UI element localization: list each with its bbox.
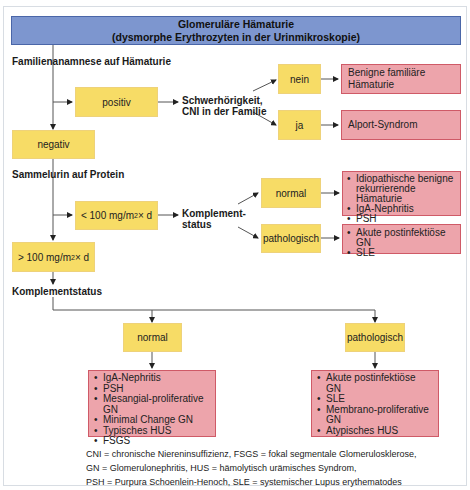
protein-low-prefix: < 100 mg/m [81, 210, 134, 221]
result-item: Membrano-proliferative GN [317, 405, 433, 426]
header-subtitle: (dysmorphe Erythrozyten in der Urinmikro… [12, 31, 460, 44]
hearing-loss-question: Schwerhörigkeit, CNI in der Familie [182, 95, 266, 117]
pathologic-results-mid: Akute postinfektiöse GN SLE [342, 224, 461, 254]
family-history-label: Familienanamnese auf Hämaturie [12, 56, 171, 67]
protein-high-prefix: > 100 mg/m [18, 252, 71, 263]
complement-status-label: Komplementstatus [12, 286, 102, 297]
normal-box-bottom: normal [123, 323, 182, 352]
result-item: Mesangial-proliferative GN [94, 394, 210, 415]
protein-low-suffix: × d [138, 210, 152, 221]
complement-line2: status [182, 219, 246, 230]
result-item: PSH [347, 214, 456, 224]
header-title: Glomeruläre Hämaturie [12, 18, 460, 31]
complement-status-label-mid: Komplement- status [182, 208, 246, 230]
legend-line: GN = Glomerulonephritis, HUS = hämolytis… [86, 461, 416, 475]
normal-box-mid: normal [261, 178, 321, 208]
legend-line: PSH = Purpura Schoenlein-Henoch, SLE = s… [86, 475, 416, 489]
positive-box: positiv [75, 87, 158, 117]
question-line1: Schwerhörigkeit, [182, 95, 266, 106]
result-item: FSGS [94, 436, 210, 447]
result-item: Atypisches HUS [317, 426, 433, 437]
negative-box: negativ [12, 130, 95, 159]
urine-protein-label: Sammelurin auf Protein [12, 169, 124, 180]
legend-line: CNI = chronische Niereninsuffizienz, FSG… [86, 447, 416, 461]
benign-familial-result: Benigne familiäre Hämaturie [341, 64, 461, 94]
result-item: SLE [317, 394, 433, 405]
result-item: Minimal Change GN [94, 415, 210, 426]
protein-high-suffix: × d [75, 252, 89, 263]
header-glomerular-hematuria: Glomeruläre Hämaturie (dysmorphe Erythro… [11, 16, 461, 45]
pathologic-results-bottom: Akute postinfektiöse GN SLE Membrano-pro… [311, 370, 439, 437]
normal-results-bottom: IgA-Nephritis PSH Mesangial-proliferativ… [88, 370, 216, 437]
result-item: IgA-Nephritis [94, 373, 210, 384]
pathologic-box-bottom: pathologisch [345, 323, 405, 352]
yes-box: ja [278, 110, 321, 140]
result-item: Idiopathische benigne rekurrierende Häma… [347, 174, 456, 204]
complement-line1: Komplement- [182, 208, 246, 219]
result-item: SLE [347, 248, 456, 258]
no-box: nein [278, 64, 321, 94]
pathologic-box-mid: pathologisch [261, 224, 321, 253]
protein-high-box: > 100 mg/m2 × d [12, 242, 95, 272]
question-line2: CNI in der Familie [182, 106, 266, 117]
protein-low-box: < 100 mg/m2 × d [75, 201, 158, 230]
abbreviation-legend: CNI = chronische Niereninsuffizienz, FSG… [86, 447, 416, 489]
result-item: Akute postinfektiöse GN [347, 228, 456, 248]
result-item: Akute postinfektiöse GN [317, 373, 433, 394]
alport-result: Alport-Syndrom [341, 110, 461, 140]
normal-results-mid: Idiopathische benigne rekurrierende Häma… [342, 171, 461, 216]
